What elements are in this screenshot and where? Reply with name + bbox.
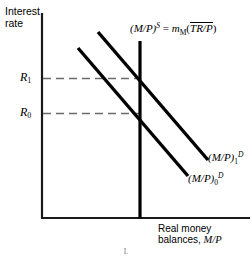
supply-label-paren-close: ) xyxy=(213,22,217,34)
x-axis-title-line1: Real money xyxy=(158,223,211,234)
x-axis-title-line2: balances, xyxy=(158,234,204,245)
supply-label-multiplier: m xyxy=(172,22,180,34)
y-axis-title-line1: Interest xyxy=(5,5,40,17)
y-tick-label-r1: R1 xyxy=(20,71,31,84)
demand1-label-expression: (M/P) xyxy=(208,151,234,163)
y-tick-r0-subscript: 0 xyxy=(27,111,31,120)
y-tick-r1-subscript: 1 xyxy=(27,76,31,85)
y-axis-title: Interest rate xyxy=(5,6,57,30)
demand0-label-superscript: D xyxy=(218,171,223,180)
supply-label-superscript: S xyxy=(156,21,160,30)
demand1-label-superscript: D xyxy=(238,150,243,159)
money-demand-0-label: (M/P)0D xyxy=(188,172,223,184)
money-demand-1-label: (M/P)1D xyxy=(208,151,243,163)
money-demand-curve-0 xyxy=(78,48,188,176)
demand0-label-expression: (M/P) xyxy=(188,172,214,184)
money-supply-label: (M/P)S = mM(TR/P) xyxy=(130,22,216,34)
figure-caption: I. xyxy=(0,246,252,256)
money-market-figure: Interest rate Real money balances, M/P R… xyxy=(0,0,252,263)
supply-label-equals: = xyxy=(160,22,172,34)
x-axis-title: Real money balances, M/P xyxy=(158,223,250,246)
supply-label-expression: (M/P) xyxy=(130,22,156,34)
supply-label-multiplier-subscript: M xyxy=(180,28,187,37)
supply-label-total-reserves: TR/P xyxy=(190,22,213,34)
y-tick-label-r0: R0 xyxy=(20,106,31,119)
x-axis-title-variable: M/P xyxy=(204,234,222,245)
money-demand-curve-1 xyxy=(98,32,208,160)
y-axis-title-line2: rate xyxy=(5,17,23,29)
